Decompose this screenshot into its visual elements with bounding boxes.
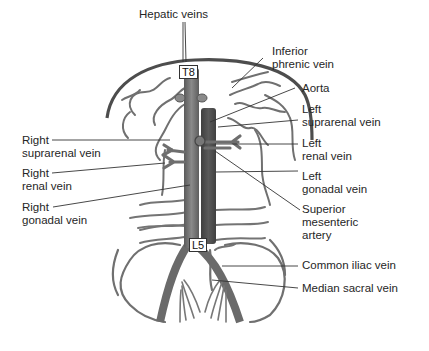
label-right-renal-vein: Right renal vein — [22, 167, 72, 193]
label-hepatic-veins: Hepatic veins — [139, 8, 208, 21]
ivc-diagram: T8 L5 Hepatic veins Inferior phrenic vei… — [0, 0, 429, 351]
aorta-vessel — [201, 108, 216, 244]
label-common-iliac-vein: Common iliac vein — [302, 259, 396, 272]
vertebra-marker-l5: L5 — [189, 238, 207, 252]
label-left-gonadal-vein: Left gonadal vein — [302, 170, 367, 196]
label-left-suprarenal-vein: Left suprarenal vein — [302, 103, 381, 129]
label-left-renal-vein: Left renal vein — [302, 137, 352, 163]
label-aorta: Aorta — [302, 82, 330, 95]
vertebra-marker-t8: T8 — [179, 65, 198, 79]
label-inferior-phrenic-vein: Inferior phrenic vein — [272, 45, 334, 71]
label-right-suprarenal-vein: Right suprarenal vein — [22, 134, 101, 160]
ivc-vessel — [184, 68, 199, 248]
sma-origin — [195, 136, 205, 146]
label-superior-mesenteric-artery: Superior mesenteric artery — [302, 203, 358, 242]
internal-iliac-branches — [180, 280, 226, 322]
label-right-gonadal-vein: Right gonadal vein — [22, 201, 87, 227]
label-median-sacral-vein: Median sacral vein — [302, 282, 398, 295]
